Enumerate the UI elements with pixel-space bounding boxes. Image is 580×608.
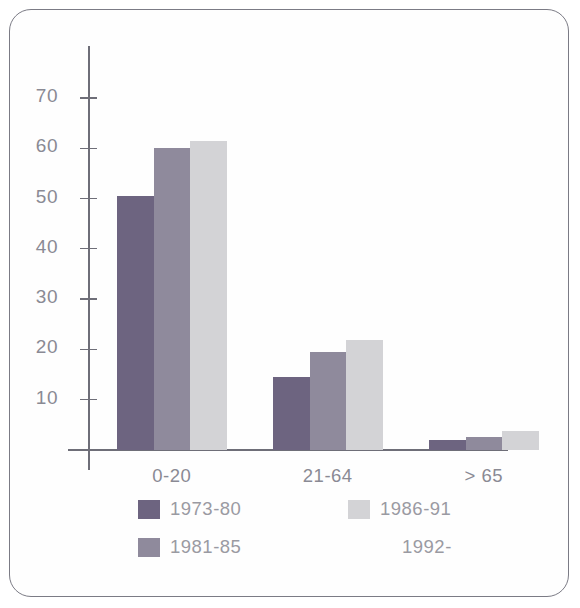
y-axis-tick — [80, 298, 97, 299]
y-axis-tick-label: 70 — [16, 85, 58, 107]
legend-swatch — [348, 500, 370, 519]
legend-label: 1981-85 — [170, 536, 241, 558]
legend-swatch — [138, 538, 160, 557]
y-axis-tick — [80, 97, 97, 98]
x-axis-tick-label: 21-64 — [268, 465, 388, 487]
y-axis-tick-label: 50 — [16, 186, 58, 208]
y-axis-tick-label: 60 — [16, 135, 58, 157]
bar — [466, 437, 503, 450]
x-axis-tick-label: 0-20 — [112, 465, 232, 487]
bar — [190, 141, 227, 450]
bar — [346, 340, 383, 450]
legend-entry: 1981-85 — [138, 535, 241, 559]
legend-label: 1992- — [402, 536, 452, 558]
bar — [429, 440, 466, 450]
legend-label: 1986-91 — [380, 498, 451, 520]
y-axis-tick — [80, 349, 97, 350]
legend-swatch — [138, 500, 160, 519]
bar — [502, 431, 539, 450]
y-axis-line — [88, 46, 90, 470]
legend-swatch-empty — [348, 538, 370, 557]
bar — [117, 196, 154, 450]
bar-chart-plot-area: 10203040506070 0-2021-64> 65 1973-801981… — [10, 10, 570, 598]
bar — [154, 148, 191, 450]
chart-legend: 1973-801981-851986-911992- — [138, 497, 518, 577]
x-axis-tick-label: > 65 — [424, 465, 544, 487]
y-axis-tick — [80, 399, 97, 400]
legend-entry: 1986-91 — [348, 497, 451, 521]
y-axis-tick — [80, 248, 97, 249]
legend-entry: 1992- — [348, 535, 452, 559]
legend-entry: 1973-80 — [138, 497, 241, 521]
y-axis-tick-label: 30 — [16, 286, 58, 308]
bar — [310, 352, 347, 450]
legend-label: 1973-80 — [170, 498, 241, 520]
y-axis-tick-label: 10 — [16, 387, 58, 409]
chart-frame: 10203040506070 0-2021-64> 65 1973-801981… — [9, 9, 569, 597]
y-axis-tick-label: 40 — [16, 236, 58, 258]
y-axis-tick-label: 20 — [16, 336, 58, 358]
y-axis-tick — [80, 148, 97, 149]
bar — [273, 377, 310, 450]
y-axis-tick — [80, 198, 97, 199]
